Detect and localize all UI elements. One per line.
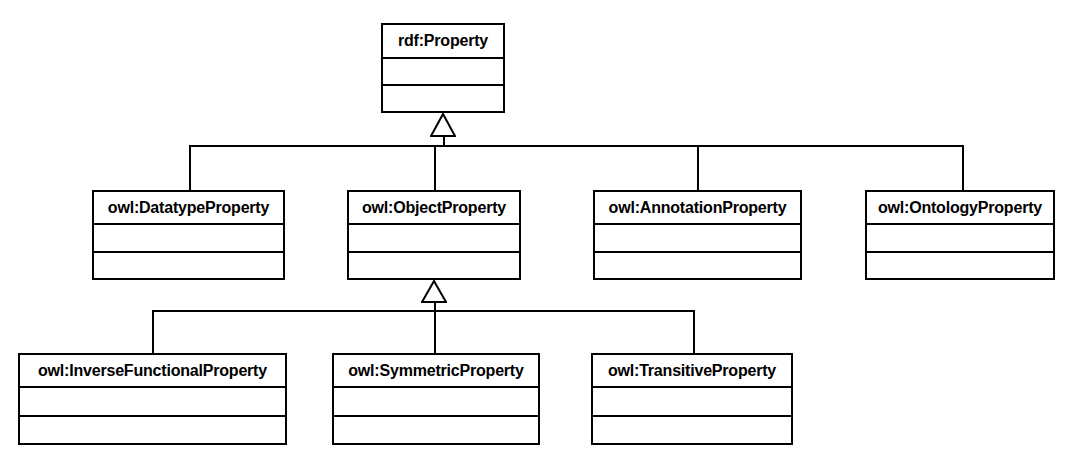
uml-attributes-compartment-owl-transitiveproperty — [593, 388, 791, 417]
generalization-drop-owl-objectproperty — [434, 145, 436, 192]
uml-class-name-owl-inversefunctionalproperty: owl:InverseFunctionalProperty — [20, 355, 285, 388]
uml-attributes-compartment-owl-symmetricproperty — [334, 388, 538, 417]
uml-attributes-compartment-owl-ontologyproperty — [867, 225, 1053, 253]
uml-class-owl-inversefunctionalproperty[interactable]: owl:InverseFunctionalProperty — [18, 353, 287, 445]
uml-attributes-compartment-owl-annotationproperty — [595, 225, 800, 253]
uml-class-name-owl-symmetricproperty: owl:SymmetricProperty — [334, 355, 538, 388]
uml-class-owl-annotationproperty[interactable]: owl:AnnotationProperty — [593, 190, 802, 280]
uml-class-owl-objectproperty[interactable]: owl:ObjectProperty — [347, 190, 521, 280]
uml-operations-compartment-owl-objectproperty — [349, 253, 519, 278]
generalization-drop-owl-transitiveproperty — [693, 310, 695, 355]
uml-class-name-owl-datatypeproperty: owl:DatatypeProperty — [94, 192, 283, 225]
generalization-arrowhead-gen-rdf-property — [430, 113, 456, 137]
uml-class-name-owl-annotationproperty: owl:AnnotationProperty — [595, 192, 800, 225]
uml-operations-compartment-owl-inversefunctionalproperty — [20, 417, 285, 443]
generalization-drop-owl-datatypeproperty — [189, 145, 191, 192]
generalization-arrowhead-gen-owl-objectproperty — [421, 280, 447, 303]
uml-class-owl-ontologyproperty[interactable]: owl:OntologyProperty — [865, 190, 1055, 280]
uml-class-owl-transitiveproperty[interactable]: owl:TransitiveProperty — [591, 353, 793, 445]
uml-class-owl-datatypeproperty[interactable]: owl:DatatypeProperty — [92, 190, 285, 280]
uml-class-name-owl-transitiveproperty: owl:TransitiveProperty — [593, 355, 791, 388]
uml-class-name-owl-ontologyproperty: owl:OntologyProperty — [867, 192, 1053, 225]
uml-class-rdf-property[interactable]: rdf:Property — [381, 23, 505, 113]
uml-attributes-compartment-owl-inversefunctionalproperty — [20, 388, 285, 417]
generalization-drop-owl-inversefunctionalproperty — [152, 310, 154, 355]
uml-operations-compartment-owl-ontologyproperty — [867, 253, 1053, 278]
uml-class-owl-symmetricproperty[interactable]: owl:SymmetricProperty — [332, 353, 540, 445]
uml-class-name-rdf-property: rdf:Property — [383, 25, 503, 59]
uml-attributes-compartment-owl-objectproperty — [349, 225, 519, 253]
uml-attributes-compartment-rdf-property — [383, 59, 503, 86]
uml-class-diagram-canvas: rdf:Propertyowl:DatatypePropertyowl:Obje… — [0, 0, 1074, 468]
generalization-bus-gen-rdf-property — [189, 145, 964, 147]
uml-operations-compartment-owl-symmetricproperty — [334, 417, 538, 443]
uml-attributes-compartment-owl-datatypeproperty — [94, 225, 283, 253]
generalization-drop-owl-ontologyproperty — [962, 145, 964, 192]
generalization-drop-owl-symmetricproperty — [434, 310, 436, 355]
generalization-drop-owl-annotationproperty — [697, 145, 699, 192]
uml-operations-compartment-owl-annotationproperty — [595, 253, 800, 278]
uml-operations-compartment-rdf-property — [383, 86, 503, 111]
uml-operations-compartment-owl-transitiveproperty — [593, 417, 791, 443]
generalization-bus-gen-owl-objectproperty — [152, 310, 695, 312]
uml-class-name-owl-objectproperty: owl:ObjectProperty — [349, 192, 519, 225]
uml-operations-compartment-owl-datatypeproperty — [94, 253, 283, 278]
